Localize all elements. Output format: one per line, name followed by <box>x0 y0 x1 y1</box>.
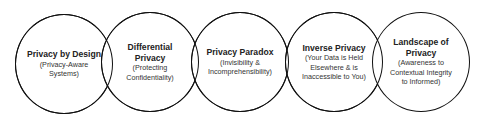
circle-title: Landscape of <box>393 37 448 48</box>
circle-outline-overlay <box>191 12 289 112</box>
circle-landscape-of-privacy: Landscape of Privacy (Awareness to Conte… <box>372 12 470 112</box>
circle-outline-overlay <box>101 12 199 112</box>
circle-outline-overlay <box>285 12 383 112</box>
circle-subtitle: (Awareness to <box>398 58 444 68</box>
circle-subtitle: Contextual Integrity <box>390 68 452 78</box>
circle-title: Privacy <box>406 48 437 59</box>
circle-outline-overlay <box>15 14 113 114</box>
circle-subtitle: to Informed) <box>402 77 441 87</box>
